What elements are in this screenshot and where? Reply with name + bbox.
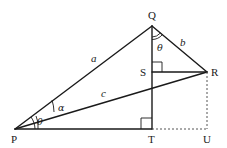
angle-label-alpha: α — [58, 102, 65, 113]
label-q: Q — [148, 9, 156, 21]
angle-arc-theta-p-3 — [31, 117, 34, 123]
angle-arc-theta-p-1 — [34, 123, 35, 129]
segment-pq — [15, 26, 152, 129]
geometry-diagram: Q R S P T U a b c α θ θ — [0, 0, 227, 148]
angle-label-theta-q: θ — [157, 42, 163, 53]
angle-label-theta-p: θ — [37, 116, 43, 127]
edge-label-c: c — [101, 87, 106, 99]
angle-arc-theta-q-1 — [152, 33, 160, 37]
label-p: P — [11, 133, 17, 145]
segment-pr — [15, 72, 207, 129]
right-angle-marker-t — [141, 118, 152, 129]
right-angle-marker-s — [152, 62, 162, 72]
label-t: T — [148, 133, 155, 145]
angle-arc-alpha — [52, 100, 54, 112]
edge-label-b: b — [180, 36, 186, 48]
label-u: U — [203, 133, 211, 145]
label-r: R — [211, 66, 219, 78]
label-s: S — [140, 66, 146, 78]
edge-label-a: a — [91, 52, 97, 64]
